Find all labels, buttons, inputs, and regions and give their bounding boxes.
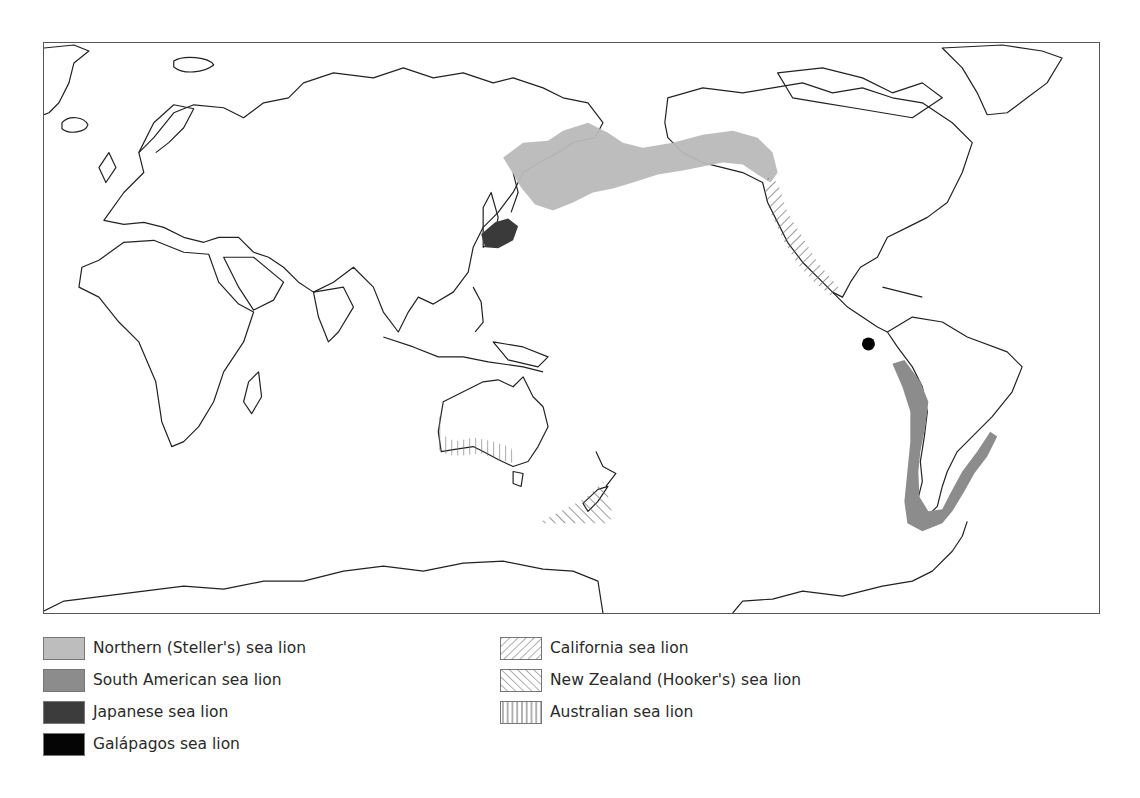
antarctica-east: [733, 521, 968, 613]
caribbean: [882, 287, 922, 297]
svalbard: [174, 57, 214, 72]
legend-label: Australian sea lion: [550, 703, 693, 721]
swatch-light-gray: [43, 637, 85, 660]
legend-label: New Zealand (Hooker's) sea lion: [550, 671, 801, 689]
legend-item-australian: Australian sea lion: [500, 699, 693, 725]
greenland-east: [942, 45, 1062, 115]
legend-item-california: California sea lion: [500, 635, 689, 661]
world-map-svg: [44, 43, 1099, 613]
iceland: [62, 118, 88, 133]
legend-item-new-zealand: New Zealand (Hooker's) sea lion: [500, 667, 801, 693]
range-new-zealand: [538, 481, 613, 523]
new-zealand-north: [596, 452, 616, 487]
legend-label: Galápagos sea lion: [93, 735, 240, 753]
central-america: [833, 292, 888, 332]
legend-label: Japanese sea lion: [93, 703, 228, 721]
swatch-backward-hatch: [500, 669, 542, 692]
swatch-black: [43, 733, 85, 756]
tasmania: [513, 471, 523, 486]
legend-item-south-american: South American sea lion: [43, 667, 282, 693]
range-galapagos: [862, 337, 875, 350]
greenland-west: [44, 45, 89, 115]
swatch-forward-hatch: [500, 637, 542, 660]
india: [313, 287, 353, 342]
legend-label: South American sea lion: [93, 671, 282, 689]
antarctica-west: [44, 561, 603, 613]
philippines: [473, 287, 483, 332]
legend-item-galapagos: Galápagos sea lion: [43, 731, 240, 757]
legend-item-japanese: Japanese sea lion: [43, 699, 228, 725]
africa: [79, 240, 254, 446]
madagascar: [244, 372, 262, 414]
indonesia: [383, 337, 543, 372]
legend-item-northern-steller: Northern (Steller's) sea lion: [43, 635, 306, 661]
new-guinea: [493, 342, 548, 367]
swatch-vertical-hatch: [500, 701, 542, 724]
legend-label: Northern (Steller's) sea lion: [93, 639, 306, 657]
british-isles: [99, 153, 116, 183]
legend-label: California sea lion: [550, 639, 689, 657]
world-map: [43, 42, 1100, 614]
swatch-dark-gray: [43, 701, 85, 724]
swatch-medium-gray: [43, 669, 85, 692]
